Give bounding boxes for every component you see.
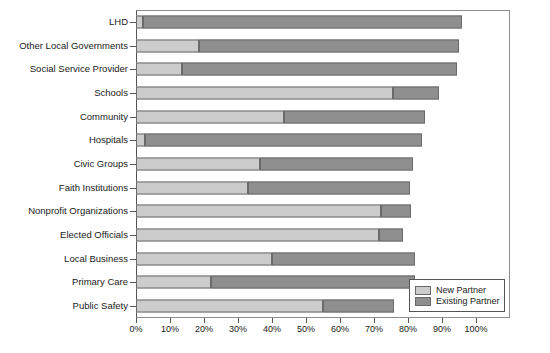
y-axis-tick	[130, 306, 136, 307]
x-axis-tick-label: 50%	[297, 324, 315, 334]
category-label: Schools	[94, 88, 128, 98]
category-label: Social Service Provider	[30, 64, 128, 74]
bar-row	[136, 110, 510, 123]
category-label: Public Safety	[73, 301, 128, 311]
bar-segment-new-partner	[136, 86, 393, 99]
bar-segment-existing-partner	[260, 158, 413, 171]
x-axis-tick	[170, 318, 171, 323]
y-axis-tick	[130, 282, 136, 283]
x-axis-tick-label: 40%	[263, 324, 281, 334]
bar-segment-new-partner	[136, 300, 323, 313]
x-axis-tick	[306, 318, 307, 323]
bar-segment-existing-partner	[379, 229, 403, 242]
bar-row	[136, 229, 510, 242]
bar-segment-existing-partner	[393, 86, 439, 99]
category-label: Elected Officials	[60, 230, 128, 240]
bar-segment-new-partner	[136, 252, 272, 265]
bar-row	[136, 205, 510, 218]
category-axis-labels: LHDOther Local GovernmentsSocial Service…	[0, 10, 132, 318]
bar-segment-new-partner	[136, 276, 211, 289]
x-axis-tick-label: 60%	[331, 324, 349, 334]
x-axis-tick-label: 90%	[433, 324, 451, 334]
bar-segment-new-partner	[136, 181, 248, 194]
legend-item-new-partner: New Partner	[415, 285, 499, 295]
bar-segment-existing-partner	[145, 134, 422, 147]
x-axis-tick	[340, 318, 341, 323]
y-axis-tick	[130, 93, 136, 94]
x-axis-tick	[476, 318, 477, 323]
legend-label-existing-partner: Existing Partner	[436, 296, 500, 306]
bar-segment-new-partner	[136, 158, 260, 171]
category-label: Hospitals	[89, 135, 128, 145]
category-label: Primary Care	[72, 277, 128, 287]
y-axis-tick	[130, 188, 136, 189]
category-label: Other Local Governments	[19, 41, 128, 51]
bar-row	[136, 86, 510, 99]
x-axis-tick	[272, 318, 273, 323]
x-axis-tick-label: 0%	[129, 324, 142, 334]
y-axis-tick	[130, 259, 136, 260]
bar-segment-new-partner	[136, 39, 199, 52]
bar-segment-existing-partner	[199, 39, 459, 52]
x-axis-tick-label: 70%	[365, 324, 383, 334]
legend-swatch-new-partner-icon	[415, 286, 431, 295]
bar-row	[136, 63, 510, 76]
bar-segment-new-partner	[136, 110, 284, 123]
bars-layer	[136, 10, 510, 318]
bar-segment-existing-partner	[182, 63, 457, 76]
bar-segment-existing-partner	[323, 300, 394, 313]
y-axis-tick	[130, 22, 136, 23]
x-axis-tick-label: 80%	[399, 324, 417, 334]
x-axis-tick-label: 100%	[464, 324, 487, 334]
bar-row	[136, 181, 510, 194]
x-axis-tick	[136, 318, 137, 323]
bar-segment-existing-partner	[381, 205, 412, 218]
bar-row	[136, 158, 510, 171]
x-axis-tick-label: 10%	[161, 324, 179, 334]
bar-row	[136, 39, 510, 52]
y-axis-tick	[130, 140, 136, 141]
bar-row	[136, 15, 510, 28]
legend-swatch-existing-partner-icon	[415, 297, 431, 306]
category-label: Community	[80, 112, 128, 122]
category-label: LHD	[109, 17, 128, 27]
bar-segment-existing-partner	[284, 110, 425, 123]
category-label: Civic Groups	[74, 159, 128, 169]
bar-segment-new-partner	[136, 134, 145, 147]
x-axis: 0%10%20%30%40%50%60%70%80%90%100%	[136, 318, 510, 326]
bar-segment-existing-partner	[211, 276, 415, 289]
x-axis-tick	[204, 318, 205, 323]
x-axis-tick	[408, 318, 409, 323]
x-axis-tick-label: 30%	[229, 324, 247, 334]
y-axis-tick	[130, 164, 136, 165]
stacked-bar-chart: LHDOther Local GovernmentsSocial Service…	[0, 0, 550, 353]
chart-legend: New Partner Existing Partner	[409, 279, 505, 312]
y-axis-tick	[130, 117, 136, 118]
bar-segment-existing-partner	[143, 15, 463, 28]
bar-segment-new-partner	[136, 15, 143, 28]
bar-segment-new-partner	[136, 205, 381, 218]
x-axis-tick	[374, 318, 375, 323]
bar-segment-new-partner	[136, 63, 182, 76]
y-axis-tick	[130, 211, 136, 212]
category-label: Faith Institutions	[59, 183, 128, 193]
x-axis-tick-label: 20%	[195, 324, 213, 334]
category-label: Nonprofit Organizations	[28, 206, 128, 216]
x-axis-tick	[442, 318, 443, 323]
bar-row	[136, 134, 510, 147]
x-axis-tick	[238, 318, 239, 323]
legend-label-new-partner: New Partner	[436, 285, 486, 295]
bar-segment-existing-partner	[248, 181, 410, 194]
y-axis-tick	[130, 235, 136, 236]
y-axis-tick	[130, 69, 136, 70]
bar-row	[136, 252, 510, 265]
bar-segment-new-partner	[136, 229, 379, 242]
legend-item-existing-partner: Existing Partner	[415, 296, 499, 306]
y-axis-tick	[130, 46, 136, 47]
category-label: Local Business	[64, 254, 128, 264]
bar-segment-existing-partner	[272, 252, 415, 265]
